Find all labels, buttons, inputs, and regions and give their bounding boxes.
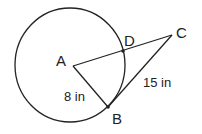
label-A: A: [56, 52, 66, 69]
geometry-diagram: A D C B 8 in 15 in: [0, 0, 202, 134]
label-B: B: [112, 110, 122, 127]
segment-BC: [108, 35, 172, 107]
point-B-dot: [106, 105, 110, 109]
label-D: D: [124, 32, 135, 49]
measure-BC: 15 in: [143, 75, 171, 90]
label-C: C: [176, 24, 187, 41]
point-D-dot: [121, 49, 125, 53]
measure-AB: 8 in: [64, 89, 85, 104]
circle: [15, 8, 125, 122]
